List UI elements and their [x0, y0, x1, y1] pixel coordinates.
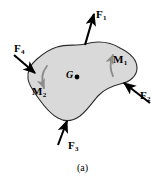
force-label-f2: F2	[140, 90, 150, 101]
force-label-f1: F1	[96, 9, 106, 20]
center-of-gravity-dot	[75, 75, 80, 80]
force-arrow-f1	[85, 14, 94, 45]
force-label-f3: F3	[68, 140, 78, 151]
moment-label-m2: M2	[32, 86, 46, 97]
force-arrow-f3	[58, 121, 67, 145]
center-of-gravity-label: G	[66, 70, 73, 80]
force-label-f4: F4	[14, 43, 24, 54]
free-body-diagram-figure: F1 F2 F3 F4 M1 M2 G (a)	[0, 0, 165, 186]
figure-caption: (a)	[0, 162, 165, 173]
moment-label-m1: M1	[113, 54, 127, 65]
